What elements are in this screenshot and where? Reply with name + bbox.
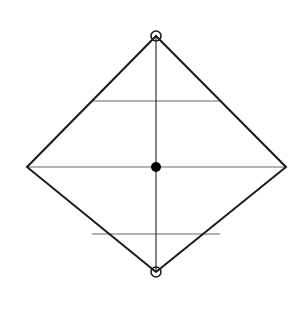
center-dot xyxy=(151,162,161,172)
diamond-diagram xyxy=(0,0,307,327)
